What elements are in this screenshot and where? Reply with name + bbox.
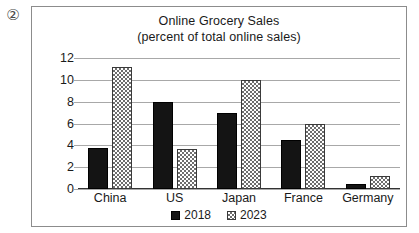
margin-question-number: ② bbox=[4, 6, 22, 24]
legend-swatch-2018 bbox=[171, 211, 180, 220]
legend-item-2018: 2018 bbox=[171, 209, 211, 221]
bar-group bbox=[142, 58, 206, 189]
bar-us-2023 bbox=[177, 149, 197, 189]
legend-swatch-2023 bbox=[227, 211, 236, 220]
y-tick-label: 6 bbox=[67, 118, 74, 130]
bar-china-2023 bbox=[112, 67, 132, 189]
y-tick-label: 2 bbox=[67, 161, 74, 173]
x-axis-labels: ChinaUSJapanFranceGermany bbox=[78, 191, 400, 206]
bar-japan-2018 bbox=[217, 113, 237, 189]
chart-title-block: Online Grocery Sales (percent of total o… bbox=[32, 13, 406, 45]
legend-label-2018: 2018 bbox=[184, 209, 211, 221]
bar-us-2018 bbox=[153, 102, 173, 189]
x-axis-label: China bbox=[78, 191, 142, 206]
bar-china-2018 bbox=[88, 148, 108, 189]
bar-japan-2023 bbox=[241, 80, 261, 189]
y-tick-label: 10 bbox=[60, 74, 74, 86]
x-axis-label: Germany bbox=[336, 191, 400, 206]
y-tick-mark bbox=[74, 189, 78, 190]
y-tick-label: 8 bbox=[67, 96, 74, 108]
bar-germany-2018 bbox=[346, 184, 366, 189]
chart-frame: Online Grocery Sales (percent of total o… bbox=[31, 6, 407, 227]
y-tick-label: 0 bbox=[67, 183, 74, 195]
bar-group bbox=[271, 58, 335, 189]
x-axis-label: France bbox=[271, 191, 335, 206]
legend-label-2023: 2023 bbox=[240, 209, 267, 221]
y-tick-label: 4 bbox=[67, 139, 74, 151]
chart-subtitle: (percent of total online sales) bbox=[32, 29, 406, 45]
gridline bbox=[78, 189, 400, 190]
bar-germany-2023 bbox=[370, 176, 390, 189]
chart-title: Online Grocery Sales bbox=[32, 13, 406, 29]
bar-group bbox=[78, 58, 142, 189]
plot-area: 121086420 bbox=[78, 58, 400, 189]
bar-group bbox=[336, 58, 400, 189]
legend-item-2023: 2023 bbox=[227, 209, 267, 221]
bar-group bbox=[207, 58, 271, 189]
x-axis-label: US bbox=[142, 191, 206, 206]
x-axis-label: Japan bbox=[207, 191, 271, 206]
y-tick-label: 12 bbox=[60, 52, 74, 64]
bar-france-2023 bbox=[305, 124, 325, 190]
chart-legend: 20182023 bbox=[32, 209, 406, 221]
bar-france-2018 bbox=[281, 140, 301, 189]
bar-groups bbox=[78, 58, 400, 189]
